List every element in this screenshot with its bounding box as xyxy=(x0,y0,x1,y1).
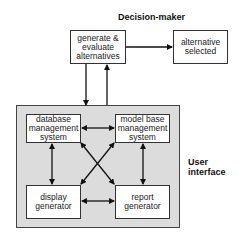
connector-arrows xyxy=(0,0,239,241)
